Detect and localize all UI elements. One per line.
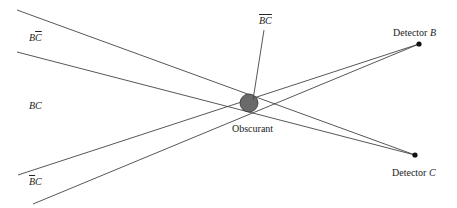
region-label-b-not-c: BC bbox=[29, 33, 42, 43]
region-c-var: C bbox=[35, 176, 42, 187]
diagram-canvas bbox=[0, 0, 457, 208]
region-c-var: C bbox=[35, 100, 42, 111]
detector-c-var: C bbox=[429, 167, 436, 178]
sight-line-upper-to-detector-c bbox=[17, 10, 415, 155]
obscurant-circle bbox=[240, 94, 258, 112]
not-b-not-c-pointer-line bbox=[253, 30, 264, 100]
region-label-not-b-c: BC bbox=[29, 177, 42, 187]
region-label-bc: BC bbox=[29, 101, 42, 111]
sight-line-upper-to-detector-b bbox=[18, 44, 419, 175]
sight-line-lower-to-detector-b bbox=[33, 44, 419, 204]
sight-line-lower-to-detector-c bbox=[17, 52, 415, 155]
detector-b-var: B bbox=[430, 27, 436, 38]
detector-c-label: Detector C bbox=[392, 168, 436, 178]
obscurant-label: Obscurant bbox=[232, 124, 273, 134]
detector-c-prefix: Detector bbox=[392, 167, 429, 178]
region-bc-var-overlined: BC bbox=[259, 15, 272, 26]
region-label-not-b-not-c: BC bbox=[259, 16, 272, 26]
detector-b-prefix: Detector bbox=[393, 27, 430, 38]
detector-b-label: Detector B bbox=[393, 28, 436, 38]
detector-c-dot bbox=[412, 152, 417, 157]
detector-b-dot bbox=[416, 41, 421, 46]
region-c-var-overlined: C bbox=[35, 32, 42, 43]
